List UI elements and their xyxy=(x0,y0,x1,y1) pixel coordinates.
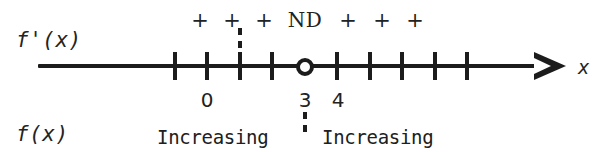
axis-tick xyxy=(238,52,242,80)
sign-plus: + xyxy=(191,8,209,32)
critical-dash-upper xyxy=(238,28,242,35)
sign-plus: + xyxy=(373,8,391,32)
axis-tick xyxy=(205,52,209,80)
axis-tick xyxy=(400,52,404,80)
behavior-left: Increasing xyxy=(157,126,268,148)
open-circle-icon xyxy=(296,58,314,76)
axis-tick xyxy=(465,52,469,80)
axis-number-label: 0 xyxy=(201,88,214,112)
axis-arrow-notch-icon xyxy=(534,58,551,74)
axis-number-label: 4 xyxy=(332,88,345,112)
axis-tick xyxy=(335,52,339,80)
sign-nd: ND xyxy=(288,8,323,32)
critical-dash-upper xyxy=(238,41,242,48)
derivative-label: f'(x) xyxy=(16,28,82,52)
behavior-right: Increasing xyxy=(322,126,433,148)
undefined-dash-lower xyxy=(303,125,307,132)
axis-number-label: 3 xyxy=(299,88,312,112)
axis-tick xyxy=(368,52,372,80)
sign-chart-figure: f'(x) f(x) +++ND+++ x 034 Increasing Inc… xyxy=(0,0,601,152)
axis-tick xyxy=(173,52,177,80)
number-line-axis xyxy=(38,64,548,68)
axis-variable-label: x xyxy=(578,56,589,78)
sign-plus: + xyxy=(255,8,273,32)
axis-tick xyxy=(270,52,274,80)
axis-tick xyxy=(433,52,437,80)
sign-plus: + xyxy=(406,8,424,32)
sign-plus: + xyxy=(339,8,357,32)
function-label: f(x) xyxy=(16,122,69,146)
undefined-dash-lower xyxy=(303,112,307,119)
